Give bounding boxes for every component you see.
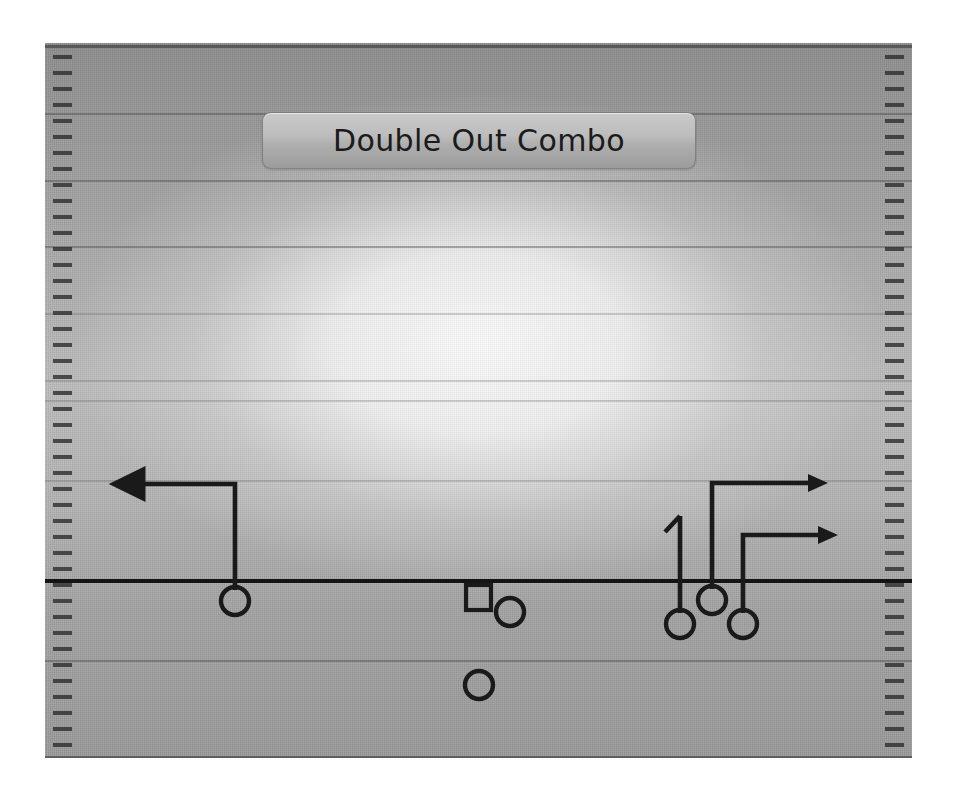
route-slot-right-arrowhead (808, 474, 828, 492)
play-title-label: Double Out Combo (333, 123, 625, 158)
player-rb[interactable] (465, 671, 493, 699)
play-diagram-root: Double Out Combo (0, 0, 956, 802)
play-title-button[interactable]: Double Out Combo (262, 112, 696, 169)
player-wr-outside-right[interactable] (729, 610, 757, 638)
route-inside-right-go (665, 516, 680, 613)
route-left-out (140, 484, 235, 590)
player-wr-slot-right[interactable] (698, 586, 726, 614)
player-wr-inside-right[interactable] (666, 610, 694, 638)
route-left-arrowhead (127, 475, 145, 493)
route-outside-right-arrowhead (818, 526, 838, 544)
player-wr-left[interactable] (221, 587, 249, 615)
player-center[interactable] (466, 585, 491, 610)
player-qb[interactable] (496, 598, 524, 626)
route-outside-right-out (743, 535, 822, 613)
